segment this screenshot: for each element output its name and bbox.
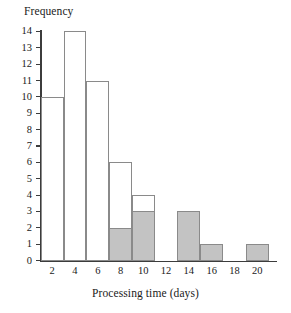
x-tick-label-6: 6	[95, 265, 100, 276]
y-tick-label-5: 5	[12, 173, 32, 184]
histogram-bar-19-21	[246, 244, 269, 260]
y-tick-label-10: 10	[12, 91, 32, 102]
y-tick-8	[36, 129, 41, 130]
x-tick-label-14: 14	[184, 265, 195, 276]
y-tick-2	[36, 227, 41, 228]
y-tick-11	[36, 80, 41, 81]
y-tick-12	[36, 64, 41, 65]
x-tick-label-4: 4	[72, 265, 77, 276]
y-tick-label-wrap: 1	[12, 244, 32, 245]
y-tick-label-11: 11	[12, 75, 32, 86]
y-tick-label-7: 7	[12, 141, 32, 152]
y-tick-label-wrap: 10	[12, 97, 32, 98]
y-tick-label-9: 9	[12, 108, 32, 119]
x-tick-label-12: 12	[161, 265, 172, 276]
y-tick-label-wrap: 5	[12, 179, 32, 180]
y-tick-label-wrap: 0	[12, 261, 32, 262]
y-tick-label-4: 4	[12, 190, 32, 201]
histogram-bar-3-5	[64, 31, 87, 260]
histogram-bar-13-15	[177, 211, 200, 260]
y-tick-label-14: 14	[12, 26, 32, 37]
y-tick-14	[36, 31, 41, 32]
y-tick-label-wrap: 7	[12, 146, 32, 147]
y-tick-7	[36, 145, 41, 146]
y-tick-label-wrap: 14	[12, 31, 32, 32]
x-axis-title: Processing time (days)	[0, 287, 291, 299]
y-tick-6	[36, 162, 41, 163]
x-tick-label-8: 8	[118, 265, 123, 276]
y-tick-4	[36, 195, 41, 196]
x-tick-label-18: 18	[229, 265, 240, 276]
y-tick-13	[36, 47, 41, 48]
y-tick-0	[36, 260, 41, 261]
y-tick-label-wrap: 12	[12, 64, 32, 65]
y-tick-label-8: 8	[12, 124, 32, 135]
y-tick-label-wrap: 2	[12, 228, 32, 229]
y-tick-3	[36, 211, 41, 212]
histogram-bar-shaded-9-11	[132, 211, 155, 260]
y-tick-label-wrap: 8	[12, 130, 32, 131]
y-tick-label-0: 0	[12, 255, 32, 266]
y-tick-label-13: 13	[12, 42, 32, 53]
y-tick-label-2: 2	[12, 222, 32, 233]
x-tick-label-16: 16	[206, 265, 217, 276]
x-tick-label-2: 2	[50, 265, 55, 276]
plot-area: 01234567891011121314 2468101214161820	[0, 0, 291, 313]
y-tick-10	[36, 96, 41, 97]
y-tick-label-12: 12	[12, 59, 32, 70]
y-tick-label-wrap: 3	[12, 211, 32, 212]
y-tick-1	[36, 244, 41, 245]
x-axis-line	[40, 261, 277, 263]
y-tick-label-6: 6	[12, 157, 32, 168]
y-tick-label-wrap: 9	[12, 113, 32, 114]
histogram-bar-15-17	[200, 244, 223, 260]
histogram-bar-1-3	[41, 97, 64, 261]
y-tick-label-wrap: 6	[12, 162, 32, 163]
x-tick-label-20: 20	[252, 265, 263, 276]
histogram-bar-shaded-7-9	[109, 228, 132, 261]
y-tick-9	[36, 113, 41, 114]
y-tick-label-wrap: 11	[12, 81, 32, 82]
y-tick-label-1: 1	[12, 239, 32, 250]
y-tick-label-wrap: 4	[12, 195, 32, 196]
y-tick-5	[36, 178, 41, 179]
x-tick-label-10: 10	[138, 265, 149, 276]
y-tick-label-3: 3	[12, 206, 32, 217]
histogram-chart: Frequency 01234567891011121314 246810121…	[0, 0, 291, 313]
y-tick-label-wrap: 13	[12, 48, 32, 49]
histogram-bar-5-7	[86, 81, 109, 261]
